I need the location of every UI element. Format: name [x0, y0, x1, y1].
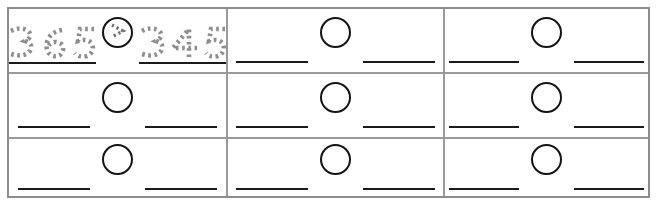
operator-circle-6[interactable]: [531, 82, 562, 113]
operator-circle-9[interactable]: [531, 144, 562, 175]
answer-rule-left-9: [449, 188, 519, 190]
greater-than-icon: [108, 22, 128, 44]
worksheet-canvas: [0, 0, 662, 209]
right-operand-6[interactable]: [570, 78, 648, 134]
answer-rule-left-2: [236, 61, 308, 63]
answer-rule-right-6: [574, 126, 644, 128]
worksheet-cell-1[interactable]: [9, 9, 228, 74]
traced-number-345: [137, 24, 228, 60]
left-operand-3[interactable]: [445, 13, 523, 69]
comparison-slot-row: [9, 74, 226, 137]
answer-rule-right-4: [145, 126, 217, 128]
comparison-grid: [7, 7, 650, 198]
comparison-slot-row: [228, 9, 443, 72]
comparison-slot-row: [445, 139, 648, 196]
worksheet-cell-2[interactable]: [228, 9, 445, 74]
left-operand-9[interactable]: [445, 140, 523, 196]
worksheet-cell-4[interactable]: [9, 74, 228, 139]
answer-rule-right-7: [145, 188, 217, 190]
worksheet-cell-8[interactable]: [228, 139, 445, 196]
comparison-slot-row: [9, 9, 226, 72]
left-operand-6[interactable]: [445, 78, 523, 134]
operator-circle-2[interactable]: [320, 17, 351, 48]
right-operand-5[interactable]: [359, 78, 439, 134]
right-operand-8[interactable]: [359, 140, 439, 196]
answer-rule-left-8: [236, 188, 308, 190]
comparison-slot-row: [445, 9, 648, 72]
answer-rule-right-2: [363, 61, 435, 63]
left-operand-2[interactable]: [232, 13, 312, 69]
comparison-slot-row: [228, 74, 443, 137]
answer-rule-right-5: [363, 126, 435, 128]
right-operand-7[interactable]: [141, 140, 221, 196]
operator-circle-5[interactable]: [320, 82, 351, 113]
left-operand-1[interactable]: [9, 13, 98, 69]
right-operand-1[interactable]: [137, 13, 228, 69]
operator-circle-4[interactable]: [102, 82, 133, 113]
left-operand-8[interactable]: [232, 140, 312, 196]
comparison-slot-row: [228, 139, 443, 196]
right-operand-4[interactable]: [141, 78, 221, 134]
worksheet-cell-3[interactable]: [445, 9, 648, 74]
traced-number-365: [9, 24, 98, 60]
answer-rule-left-5: [236, 126, 308, 128]
comparison-slot-row: [445, 74, 648, 137]
answer-rule-right-3: [574, 61, 644, 63]
left-operand-5[interactable]: [232, 78, 312, 134]
right-operand-2[interactable]: [359, 13, 439, 69]
answer-rule-left-7: [18, 188, 90, 190]
answer-rule-left-6: [449, 126, 519, 128]
right-operand-9[interactable]: [570, 140, 648, 196]
answer-rule-right-1: [139, 62, 227, 64]
answer-rule-left-1: [9, 62, 96, 64]
operator-circle-1[interactable]: [102, 17, 133, 48]
answer-rule-right-8: [363, 188, 435, 190]
operator-circle-7[interactable]: [102, 144, 133, 175]
answer-rule-left-3: [449, 61, 519, 63]
worksheet-cell-9[interactable]: [445, 139, 648, 196]
answer-rule-right-9: [574, 188, 644, 190]
worksheet-cell-7[interactable]: [9, 139, 228, 196]
answer-rule-left-4: [18, 126, 90, 128]
operator-circle-3[interactable]: [531, 17, 562, 48]
left-operand-7[interactable]: [14, 140, 94, 196]
worksheet-cell-6[interactable]: [445, 74, 648, 139]
right-operand-3[interactable]: [570, 13, 648, 69]
comparison-slot-row: [9, 139, 226, 196]
left-operand-4[interactable]: [14, 78, 94, 134]
worksheet-cell-5[interactable]: [228, 74, 445, 139]
operator-circle-8[interactable]: [320, 144, 351, 175]
